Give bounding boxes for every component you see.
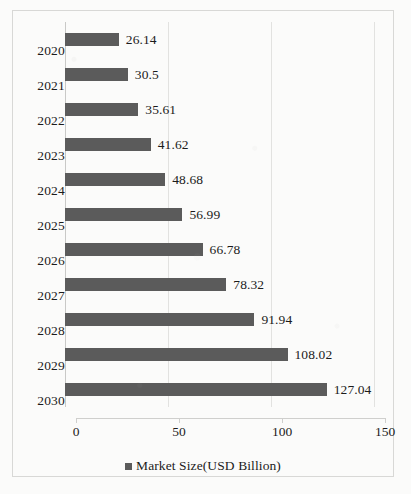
x-tick-label-0: 0: [73, 424, 80, 440]
x-tick-label-100: 100: [272, 424, 292, 440]
bar-row[interactable]: 78.32: [65, 267, 374, 302]
bar-value-label: 26.14: [126, 32, 157, 48]
x-axis-line: [76, 418, 386, 419]
bar[interactable]: [65, 33, 119, 46]
bar-row[interactable]: 30.5: [65, 57, 374, 92]
plot-area: 26.1430.535.6141.6248.6856.9966.7878.329…: [65, 22, 374, 407]
bar-value-label: 48.68: [172, 172, 203, 188]
bar-row[interactable]: 127.04: [65, 372, 374, 407]
bar[interactable]: [65, 138, 151, 151]
bar[interactable]: [65, 243, 203, 256]
x-tick-mark-150: [385, 418, 386, 423]
bar-row[interactable]: 66.78: [65, 232, 374, 267]
legend-label: Market Size(USD Billion): [136, 458, 281, 474]
bar-value-label: 91.94: [261, 312, 292, 328]
bar[interactable]: [65, 68, 128, 81]
bar-row[interactable]: 41.62: [65, 127, 374, 162]
x-tick-label-50: 50: [172, 424, 186, 440]
bar-row[interactable]: 26.14: [65, 22, 374, 57]
chart-frame: 26.1430.535.6141.6248.6856.9966.7878.329…: [12, 10, 394, 477]
bar-value-label: 127.04: [334, 382, 372, 398]
bar-row[interactable]: 91.94: [65, 302, 374, 337]
x-tick-mark-0: [76, 418, 77, 423]
bar-value-label: 66.78: [210, 242, 241, 258]
y-axis-label-2029: 2029: [21, 348, 65, 383]
x-tick-label-150: 150: [375, 424, 395, 440]
bar-series: 26.1430.535.6141.6248.6856.9966.7878.329…: [65, 22, 374, 407]
bar-value-label: 108.02: [295, 347, 333, 363]
bar-row[interactable]: 48.68: [65, 162, 374, 197]
y-axis-label-2021: 2021: [21, 68, 65, 103]
y-axis-label-2024: 2024: [21, 173, 65, 208]
x-tick-mark-100: [282, 418, 283, 423]
y-axis-label-2028: 2028: [21, 313, 65, 348]
bar-value-label: 56.99: [189, 207, 220, 223]
bar[interactable]: [65, 208, 182, 221]
bar-row[interactable]: 35.61: [65, 92, 374, 127]
gridline-150: [374, 22, 375, 407]
bar-row[interactable]: 56.99: [65, 197, 374, 232]
y-axis-label-2026: 2026: [21, 243, 65, 278]
y-axis-label-2022: 2022: [21, 103, 65, 138]
bar[interactable]: [65, 173, 165, 186]
bar[interactable]: [65, 348, 288, 361]
x-tick-mark-50: [179, 418, 180, 423]
bar-value-label: 35.61: [145, 102, 176, 118]
chart-legend: Market Size(USD Billion): [13, 458, 393, 474]
y-axis-label-2023: 2023: [21, 138, 65, 173]
y-axis-label-2025: 2025: [21, 208, 65, 243]
y-axis-label-2020: 2020: [21, 33, 65, 68]
bar-value-label: 78.32: [233, 277, 264, 293]
bar-value-label: 30.5: [135, 67, 159, 83]
y-axis-label-2027: 2027: [21, 278, 65, 313]
bar[interactable]: [65, 313, 254, 326]
bar[interactable]: [65, 383, 327, 396]
bar-row[interactable]: 108.02: [65, 337, 374, 372]
legend-swatch-icon: [125, 463, 132, 470]
y-axis-label-2030: 2030: [21, 383, 65, 418]
bar[interactable]: [65, 103, 138, 116]
bar-value-label: 41.62: [158, 137, 189, 153]
bar[interactable]: [65, 278, 226, 291]
